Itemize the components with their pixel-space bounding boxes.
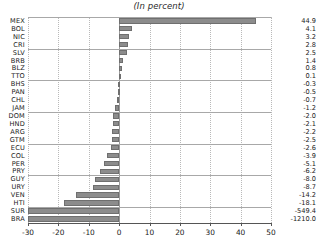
group-separator bbox=[28, 112, 271, 113]
x-tick-label: 20 bbox=[175, 228, 184, 237]
chart-row: SUR-549.4 bbox=[28, 207, 271, 215]
chart-title: (In percent) bbox=[0, 1, 318, 11]
chart-row: PAN-0.5 bbox=[28, 88, 271, 96]
bar bbox=[115, 105, 119, 110]
bar bbox=[28, 216, 119, 221]
bar bbox=[64, 200, 119, 205]
x-tick-label: -30 bbox=[22, 228, 34, 237]
chart-row: CHL-0.7 bbox=[28, 96, 271, 104]
chart-row: HND-2.1 bbox=[28, 120, 271, 128]
x-tick-label: 0 bbox=[117, 228, 122, 237]
bar bbox=[119, 58, 123, 63]
chart-row: TTO0.1 bbox=[28, 72, 271, 80]
chart-row: PER-5.1 bbox=[28, 160, 271, 168]
x-tick bbox=[58, 223, 59, 226]
plot-top-border bbox=[28, 17, 271, 18]
value-label: -1210.0 bbox=[274, 216, 316, 223]
bar bbox=[119, 18, 255, 23]
x-tick bbox=[241, 223, 242, 226]
bar bbox=[112, 129, 119, 134]
chart-row: BHS-0.3 bbox=[28, 80, 271, 88]
chart-row: SLV2.5 bbox=[28, 49, 271, 57]
bar bbox=[107, 153, 119, 158]
chart-row: GTM-2.5 bbox=[28, 136, 271, 144]
gridline bbox=[271, 17, 272, 223]
group-separator bbox=[28, 144, 271, 145]
bar bbox=[93, 185, 119, 190]
x-tick-label: -20 bbox=[52, 228, 64, 237]
x-tick-label: 50 bbox=[266, 228, 275, 237]
bar bbox=[113, 113, 119, 118]
chart-row: CRI2.8 bbox=[28, 41, 271, 49]
bar bbox=[95, 177, 119, 182]
bar bbox=[104, 161, 119, 166]
bar bbox=[119, 26, 131, 31]
x-tick bbox=[89, 223, 90, 226]
chart-row: VEN-14.2 bbox=[28, 191, 271, 199]
chart-row: URY-8.7 bbox=[28, 183, 271, 191]
group-separator bbox=[28, 175, 271, 176]
group-separator bbox=[28, 49, 271, 50]
chart-page: (In percent) MEX44.9BOL4.1NIC3.2CRI2.8SL… bbox=[0, 0, 318, 249]
x-tick bbox=[271, 223, 272, 226]
group-separator bbox=[28, 80, 271, 81]
bar bbox=[111, 145, 119, 150]
bar bbox=[76, 192, 119, 197]
x-tick-label: -10 bbox=[83, 228, 95, 237]
chart-row: ARG-2.2 bbox=[28, 128, 271, 136]
plot-area: MEX44.9BOL4.1NIC3.2CRI2.8SLV2.5BRB1.4BLZ… bbox=[28, 17, 271, 223]
x-tick bbox=[150, 223, 151, 226]
bar bbox=[118, 82, 120, 87]
bar bbox=[119, 42, 128, 47]
bar bbox=[112, 137, 120, 142]
x-tick bbox=[180, 223, 181, 226]
bar bbox=[119, 66, 121, 71]
chart-row: COL-3.9 bbox=[28, 152, 271, 160]
chart-row: BLZ0.8 bbox=[28, 65, 271, 73]
chart-row: HTI-18.1 bbox=[28, 199, 271, 207]
chart-row: JAM-1.2 bbox=[28, 104, 271, 112]
x-tick-label: 30 bbox=[206, 228, 215, 237]
chart-row: NIC3.2 bbox=[28, 33, 271, 41]
bar bbox=[113, 121, 119, 126]
chart-row: ECU-2.6 bbox=[28, 144, 271, 152]
bar bbox=[117, 97, 119, 102]
bar bbox=[118, 89, 120, 94]
chart-row: BRB1.4 bbox=[28, 57, 271, 65]
bar bbox=[28, 208, 119, 213]
chart-row: BRA-1210.0 bbox=[28, 215, 271, 223]
group-separator bbox=[28, 207, 271, 208]
x-tick-label: 10 bbox=[145, 228, 154, 237]
chart-row: MEX44.9 bbox=[28, 17, 271, 25]
chart-row: BOL4.1 bbox=[28, 25, 271, 33]
chart-row: DOM-2.0 bbox=[28, 112, 271, 120]
x-tick bbox=[28, 223, 29, 226]
x-tick bbox=[119, 223, 120, 226]
x-axis: -30-20-1001020304050 bbox=[28, 223, 271, 247]
bar bbox=[119, 50, 127, 55]
category-label: BRA bbox=[11, 216, 25, 223]
x-tick bbox=[210, 223, 211, 226]
bar bbox=[100, 169, 119, 174]
x-tick-label: 40 bbox=[236, 228, 245, 237]
chart-row: GUY-8.0 bbox=[28, 175, 271, 183]
bar bbox=[119, 74, 121, 79]
chart-row: PRY-6.2 bbox=[28, 168, 271, 176]
bar bbox=[119, 34, 129, 39]
